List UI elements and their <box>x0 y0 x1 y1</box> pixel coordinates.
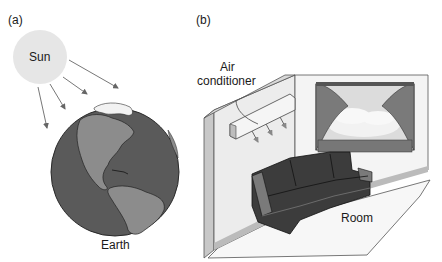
room-label: Room <box>341 211 373 225</box>
panel-b-label: (b) <box>196 13 211 27</box>
room-illustration <box>204 75 430 258</box>
earth-icon <box>51 103 179 236</box>
diagram-canvas <box>0 0 442 262</box>
sun-label: Sun <box>29 50 50 64</box>
window-icon <box>316 82 414 152</box>
panel-a-label: (a) <box>8 13 23 27</box>
ac-label-line1: Air <box>220 60 235 74</box>
ac-label-line2: conditioner <box>197 74 256 88</box>
earth-label: Earth <box>101 238 130 252</box>
